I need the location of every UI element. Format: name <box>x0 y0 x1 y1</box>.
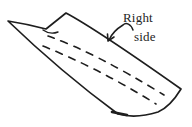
annotation-label-line1: Right <box>123 8 156 27</box>
diagram-canvas: Right side <box>0 0 192 127</box>
flap-fold-hint-line <box>43 30 58 33</box>
annotation-label: Right side <box>123 8 156 46</box>
annotation-label-line2: side <box>134 27 156 46</box>
folded-paper-illustration <box>0 0 192 127</box>
edge-overlap-tick <box>112 112 127 115</box>
fold-line-dashed-lower <box>43 46 156 104</box>
